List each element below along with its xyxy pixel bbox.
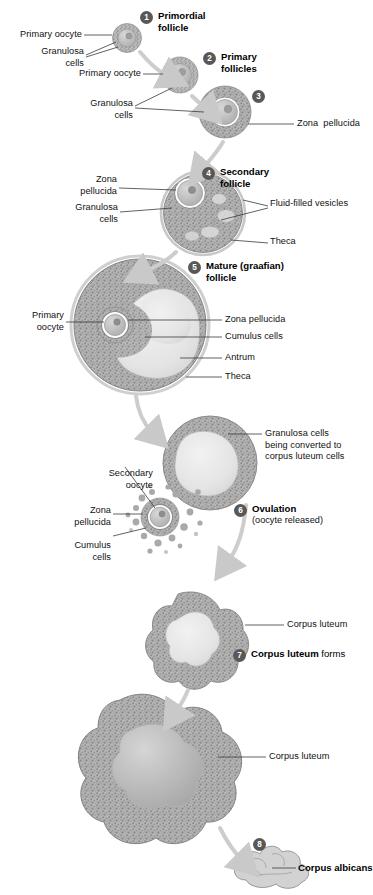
stage-badge-7: 7 bbox=[233, 649, 246, 662]
label-zona-pellucida-6: Zona pellucida bbox=[30, 505, 111, 528]
stage-5-mature-graafian-follicle bbox=[71, 256, 209, 394]
label-zona-pellucida-5: Zona pellucida bbox=[225, 314, 285, 326]
label-granulosa-cells-4: Granulosa cells bbox=[38, 202, 118, 225]
stage-badge-2: 2 bbox=[203, 52, 216, 65]
label-cumulus-cells-5: Cumulus cells bbox=[225, 331, 283, 343]
label-theca-4: Theca bbox=[270, 236, 296, 248]
label-theca-5: Theca bbox=[225, 371, 251, 383]
stage-badge-5: 5 bbox=[188, 261, 201, 274]
stage-badge-1: 1 bbox=[140, 11, 153, 24]
stage-1-primordial-follicle bbox=[113, 24, 142, 53]
label-granulosa-cells-1: Granulosa cells bbox=[4, 46, 84, 69]
stage-7b-corpus-luteum-large bbox=[78, 694, 241, 843]
stage-badge-3: 3 bbox=[252, 90, 265, 103]
stage-7-corpus-luteum-forms bbox=[146, 592, 249, 689]
label-secondary-oocyte: Secondary oocyte bbox=[70, 468, 153, 491]
label-primary-oocyte-2: Primary oocyte bbox=[63, 68, 141, 80]
label-zona-pellucida-3: Zona pellucida bbox=[297, 118, 360, 130]
stage-3-primary-follicle bbox=[199, 86, 251, 138]
stage-title-7: Corpus luteum forms bbox=[251, 648, 345, 660]
stage-subtitle-6: (oocyte released) bbox=[252, 515, 323, 527]
label-antrum: Antrum bbox=[225, 352, 255, 364]
stage-title-5: Mature (graafian) follicle bbox=[206, 260, 284, 284]
stage-title-2: Primary follicles bbox=[221, 51, 257, 75]
label-fluid-filled-vesicles: Fluid-filled vesicles bbox=[270, 198, 348, 210]
stage-badge-4: 4 bbox=[202, 167, 215, 180]
stage-title-4: Secondary follicle bbox=[220, 166, 269, 190]
stage-title-6: Ovulation bbox=[252, 503, 296, 515]
label-zona-pellucida-4: Zona pellucida bbox=[38, 174, 117, 197]
stage-title-8: Corpus albicans bbox=[298, 862, 373, 874]
stage-title-1: Primordial follicle bbox=[158, 10, 205, 34]
stage-badge-6: 6 bbox=[234, 504, 247, 517]
label-granulosa-converting: Granulosa cells being converted to corpu… bbox=[265, 428, 345, 463]
label-granulosa-cells-2: Granulosa cells bbox=[55, 98, 133, 121]
label-corpus-luteum-7b: Corpus luteum bbox=[269, 751, 329, 763]
label-primary-oocyte-5: Primary oocyte bbox=[0, 310, 64, 333]
stage-badge-8: 8 bbox=[253, 838, 266, 851]
label-corpus-luteum-7: Corpus luteum bbox=[287, 619, 347, 631]
label-primary-oocyte-1: Primary oocyte bbox=[4, 29, 82, 41]
label-cumulus-cells-6: Cumulus cells bbox=[30, 540, 111, 563]
